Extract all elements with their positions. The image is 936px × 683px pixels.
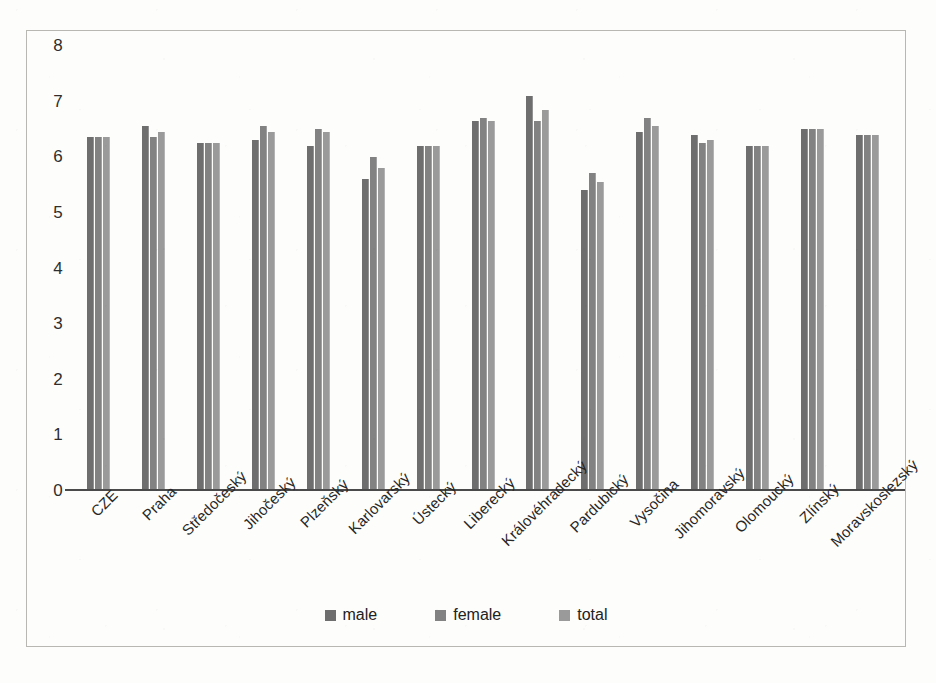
x-axis-label-slot: Jihočeský — [236, 493, 291, 623]
bar-female — [370, 157, 377, 489]
bar-female — [699, 143, 706, 489]
x-axis-label-slot: Olomoucký — [730, 493, 785, 623]
x-axis-label-slot: Praha — [126, 493, 181, 623]
x-axis-label: CZE — [88, 486, 121, 519]
x-axis-label-slot: Jihomoravský — [675, 493, 730, 623]
bar-male — [142, 126, 149, 489]
bar-total — [817, 129, 824, 489]
x-axis-label-slot: Zlínský — [785, 493, 840, 623]
bar-group — [126, 46, 181, 489]
legend-swatch-icon — [559, 610, 570, 621]
legend-item-male: male — [325, 606, 378, 624]
bar-female — [150, 137, 157, 489]
bar-female — [425, 146, 432, 489]
chart-frame: 876543210 CZEPrahaStředočeskýJihočeskýPl… — [26, 30, 906, 647]
bar-group — [71, 46, 126, 489]
chart-legend: malefemaletotal — [27, 606, 905, 624]
x-axis-label-slot: Plzeňský — [291, 493, 346, 623]
legend-label: total — [577, 606, 607, 624]
x-axis-label-slot: Liberecký — [456, 493, 511, 623]
bar-female — [864, 135, 871, 489]
bar-male — [581, 190, 588, 489]
bar-total — [378, 168, 385, 489]
y-axis-tick-label: 7 — [53, 92, 63, 112]
bar-group — [785, 46, 840, 489]
bar-total — [433, 146, 440, 489]
bar-female — [589, 173, 596, 489]
y-axis-tick-label: 3 — [53, 314, 63, 334]
bar-group — [730, 46, 785, 489]
bar-group — [346, 46, 401, 489]
bar-male — [746, 146, 753, 489]
bar-group — [675, 46, 730, 489]
bar-group — [401, 46, 456, 489]
bar-total — [103, 137, 110, 489]
x-axis-label-slot: Královéhradecký — [511, 493, 566, 623]
x-axis-label-slot: CZE — [71, 493, 126, 623]
bar-male — [636, 132, 643, 489]
x-axis-label-slot: Moravskoslezský — [840, 493, 895, 623]
bar-total — [268, 132, 275, 489]
bar-total — [323, 132, 330, 489]
legend-swatch-icon — [435, 610, 446, 621]
bar-total — [213, 143, 220, 489]
bar-group — [456, 46, 511, 489]
legend-item-total: total — [559, 606, 607, 624]
bar-group — [291, 46, 346, 489]
bar-male — [197, 143, 204, 489]
bar-total — [158, 132, 165, 489]
bar-female — [754, 146, 761, 489]
x-axis-label-slot: Ústecký — [401, 493, 456, 623]
bar-male — [801, 129, 808, 489]
bar-male — [526, 96, 533, 489]
x-axis-label-slot: Středočeský — [181, 493, 236, 623]
bar-total — [542, 110, 549, 489]
x-axis-label-slot: Karlovarský — [346, 493, 401, 623]
bar-group — [236, 46, 291, 489]
bar-male — [472, 121, 479, 489]
bar-total — [872, 135, 879, 489]
x-axis-labels: CZEPrahaStředočeskýJihočeskýPlzeňskýKarl… — [71, 493, 895, 623]
bar-group — [511, 46, 566, 489]
bar-male — [417, 146, 424, 489]
y-axis-tick-label: 4 — [53, 259, 63, 279]
bar-total — [762, 146, 769, 489]
bar-female — [95, 137, 102, 489]
y-axis-tick-label: 1 — [53, 425, 63, 445]
bar-total — [488, 121, 495, 489]
bar-group — [565, 46, 620, 489]
bar-group — [181, 46, 236, 489]
legend-label: male — [343, 606, 378, 624]
bar-female — [260, 126, 267, 489]
x-axis-label-slot: Vysočina — [620, 493, 675, 623]
bar-male — [691, 135, 698, 489]
bar-male — [87, 137, 94, 489]
bar-male — [362, 179, 369, 489]
legend-label: female — [453, 606, 501, 624]
bar-female — [809, 129, 816, 489]
bar-group — [840, 46, 895, 489]
y-axis-tick-label: 0 — [53, 481, 63, 501]
legend-swatch-icon — [325, 610, 336, 621]
bars-layer — [71, 46, 895, 489]
bar-total — [707, 140, 714, 489]
y-axis-tick-label: 8 — [53, 36, 63, 56]
bar-group — [620, 46, 675, 489]
bar-total — [652, 126, 659, 489]
bar-male — [856, 135, 863, 489]
bar-female — [644, 118, 651, 489]
bar-female — [315, 129, 322, 489]
bar-female — [534, 121, 541, 489]
bar-male — [307, 146, 314, 489]
legend-item-female: female — [435, 606, 501, 624]
y-axis-tick-label: 2 — [53, 370, 63, 390]
x-axis-label-slot: Pardubický — [565, 493, 620, 623]
y-axis-tick-label: 5 — [53, 203, 63, 223]
bar-female — [480, 118, 487, 489]
y-axis-tick-label: 6 — [53, 147, 63, 167]
bar-female — [205, 143, 212, 489]
plot-area: 876543210 — [71, 46, 895, 491]
bar-male — [252, 140, 259, 489]
bar-total — [597, 182, 604, 489]
